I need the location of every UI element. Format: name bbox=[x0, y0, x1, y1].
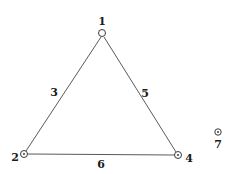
node-2-center-dot-icon bbox=[23, 153, 25, 155]
edge-label-5: 5 bbox=[141, 87, 149, 100]
edge-label-3: 3 bbox=[50, 86, 58, 99]
node-4 bbox=[175, 152, 182, 159]
node-7 bbox=[215, 129, 221, 135]
edge-label-6: 6 bbox=[97, 158, 105, 171]
node-label-4: 4 bbox=[185, 152, 193, 165]
node-1 bbox=[99, 30, 106, 37]
node-2 bbox=[21, 151, 28, 158]
node-label-2: 2 bbox=[11, 151, 19, 164]
node-7-center-dot-icon bbox=[217, 131, 219, 133]
edge-6 bbox=[28, 154, 174, 155]
edge-3 bbox=[26, 37, 101, 151]
node-label-7: 7 bbox=[214, 138, 222, 151]
graph-diagram: 1 2 4 7 3 5 6 bbox=[0, 0, 235, 174]
node-1-open-circle-icon bbox=[99, 30, 106, 37]
edge-5 bbox=[104, 37, 176, 152]
node-label-1: 1 bbox=[98, 15, 106, 28]
node-4-center-dot-icon bbox=[177, 154, 179, 156]
